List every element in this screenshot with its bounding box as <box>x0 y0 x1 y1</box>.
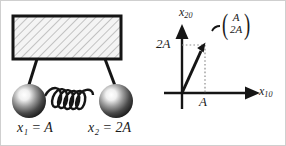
mass-sphere-left <box>12 84 46 118</box>
y-tick-label-2a: 2A <box>156 37 170 50</box>
initial-condition-vector <box>182 43 206 94</box>
hatched-support-block <box>13 16 121 59</box>
mass-sphere-right <box>99 84 133 118</box>
physics-figure: x₁ = A x₂ = 2A x20 x10 2A A ( A 2A ) <box>0 0 286 146</box>
coordinate-y: 2A <box>230 24 242 36</box>
connecting-rods <box>27 59 117 91</box>
x-axis-label-subscript: 10 <box>264 90 272 99</box>
y-axis <box>176 24 189 109</box>
left-paren: ( <box>222 12 228 35</box>
coil-spring <box>45 88 93 109</box>
x-axis <box>164 87 260 100</box>
y-axis-label-subscript: 20 <box>184 11 192 20</box>
x-tick-label-a: A <box>199 95 207 108</box>
mass1-label: x₁ = A <box>17 121 53 135</box>
mass2-label: x₂ = 2A <box>88 121 131 135</box>
x-axis-label: x10 <box>259 85 272 99</box>
vector-coordinate-annotation: ( A 2A ) <box>220 12 252 35</box>
coordinate-stack: A 2A <box>230 12 242 35</box>
coordinate-x: A <box>233 12 240 24</box>
callout-hook <box>212 26 220 31</box>
y-axis-label: x20 <box>179 6 192 20</box>
right-paren: ) <box>244 12 250 35</box>
